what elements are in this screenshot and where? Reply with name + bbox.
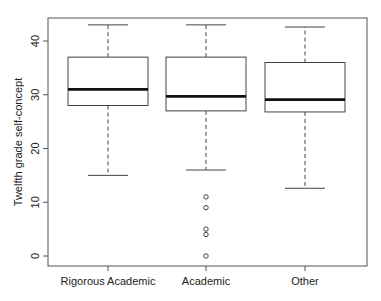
y-tick-label: 40 <box>29 35 41 47</box>
y-tick-label: 10 <box>29 196 41 208</box>
x-axis: Rigorous AcademicAcademicOther <box>61 266 319 287</box>
plot-frame <box>48 18 367 266</box>
iqr-box <box>68 57 148 105</box>
box-other <box>265 27 345 188</box>
y-axis: 010203040 <box>29 35 48 259</box>
outlier-point <box>204 205 208 209</box>
y-tick-label: 30 <box>29 89 41 101</box>
outlier-point <box>204 254 208 258</box>
y-axis-label: Twelfth grade self-concept <box>12 78 24 206</box>
x-category-label: Rigorous Academic <box>61 275 156 287</box>
outlier-point <box>204 232 208 236</box>
boxplot-chart: 010203040 Rigorous AcademicAcademicOther… <box>0 0 381 301</box>
outlier-point <box>204 195 208 199</box>
outlier-point <box>204 227 208 231</box>
box-academic <box>166 25 246 258</box>
iqr-box <box>166 57 246 111</box>
boxes <box>68 25 345 258</box>
x-category-label: Other <box>291 275 319 287</box>
iqr-box <box>265 63 345 112</box>
y-tick-label: 0 <box>29 253 41 259</box>
x-category-label: Academic <box>182 275 231 287</box>
y-tick-label: 20 <box>29 142 41 154</box>
box-rigorous-academic <box>68 25 148 176</box>
